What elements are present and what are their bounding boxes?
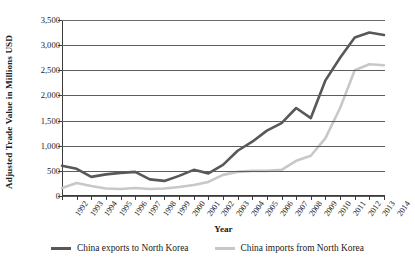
y-tickmark: [58, 171, 62, 172]
chart-figure: Adjusted Trade Value in Millions USD 050…: [0, 0, 415, 267]
gridline: [62, 70, 385, 71]
x-tick-label: 1999: [176, 200, 192, 218]
series-lines: [62, 20, 385, 196]
x-tick-label: 1995: [118, 200, 134, 218]
x-tick-label: 2000: [191, 200, 207, 218]
x-tick-label: 2007: [294, 200, 310, 218]
x-tick-label: 1996: [133, 200, 149, 218]
x-tick-label: 2011: [352, 200, 368, 218]
y-tickmark: [58, 45, 62, 46]
x-tick-label: 2013: [381, 200, 397, 218]
y-tick-label: 1,000: [18, 141, 60, 150]
x-tick-label: 2006: [279, 200, 295, 218]
y-axis-title-text: Adjusted Trade Value in Millions USD: [4, 35, 14, 189]
gridline: [62, 146, 385, 147]
legend-item[interactable]: China imports from North Korea: [215, 243, 364, 253]
gridline: [62, 45, 385, 46]
gridline: [62, 20, 385, 21]
x-tick-label: 2012: [367, 200, 383, 218]
y-tickmark: [58, 146, 62, 147]
x-tick-label: 2003: [235, 200, 251, 218]
y-tickmark: [58, 95, 62, 96]
x-tick-label: 2009: [323, 200, 339, 218]
y-tick-label: 2,500: [18, 66, 60, 75]
y-tick-label: 3,000: [18, 41, 60, 50]
y-tick-label: 0: [18, 192, 60, 201]
x-tick-label: 2008: [308, 200, 324, 218]
x-tick-label: 2014: [396, 200, 412, 218]
x-tick-label: 2002: [220, 200, 236, 218]
x-tick-label: 1997: [147, 200, 163, 218]
legend-label: China imports from North Korea: [241, 243, 364, 253]
y-tick-label: 3,500: [18, 16, 60, 25]
x-tick-label: 2001: [206, 200, 222, 218]
legend-item[interactable]: China exports to North Korea: [51, 243, 188, 253]
y-tick-label: 1,500: [18, 116, 60, 125]
y-axis-tick-labels: 05001,0001,5002,0002,5003,0003,500: [16, 0, 60, 267]
x-tick-label: 2010: [337, 200, 353, 218]
y-tickmark: [58, 20, 62, 21]
x-tick-label: 2005: [264, 200, 280, 218]
x-tick-label: 1998: [162, 200, 178, 218]
legend-label: China exports to North Korea: [77, 243, 188, 253]
gridline: [62, 121, 385, 122]
legend-swatch-icon: [51, 247, 71, 250]
y-tick-label: 500: [18, 167, 60, 176]
y-tickmark: [58, 121, 62, 122]
gridline: [62, 171, 385, 172]
x-tick-label: 1994: [103, 200, 119, 218]
legend-swatch-icon: [215, 247, 235, 250]
plot-area: [62, 20, 385, 196]
y-tick-label: 2,000: [18, 91, 60, 100]
x-tick-label: 2004: [250, 200, 266, 218]
x-tick-label: 1993: [89, 200, 105, 218]
y-tickmark: [58, 70, 62, 71]
series-line: [62, 33, 384, 181]
x-tick-label: 1992: [74, 200, 90, 218]
chart-legend: China exports to North KoreaChina import…: [0, 243, 415, 253]
gridline: [62, 95, 385, 96]
x-axis-title: Year: [62, 224, 385, 234]
